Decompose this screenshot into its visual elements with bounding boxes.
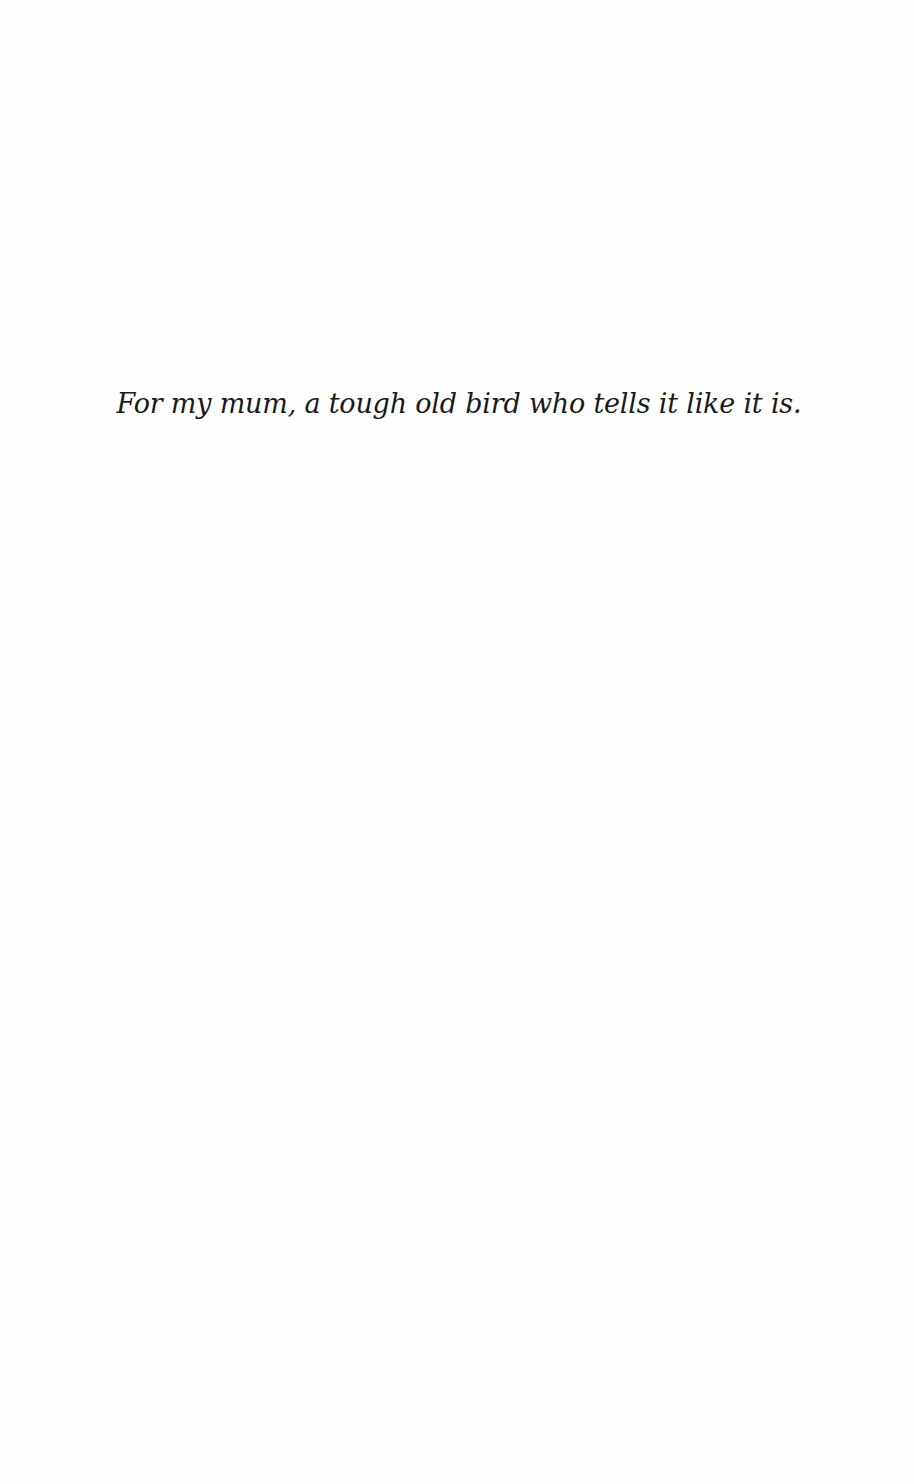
book-page: For my mum, a tough old bird who tells i… [0,0,914,1484]
dedication: For my mum, a tough old bird who tells i… [0,384,914,424]
dedication-text: For my mum, a tough old bird who tells i… [117,384,802,424]
